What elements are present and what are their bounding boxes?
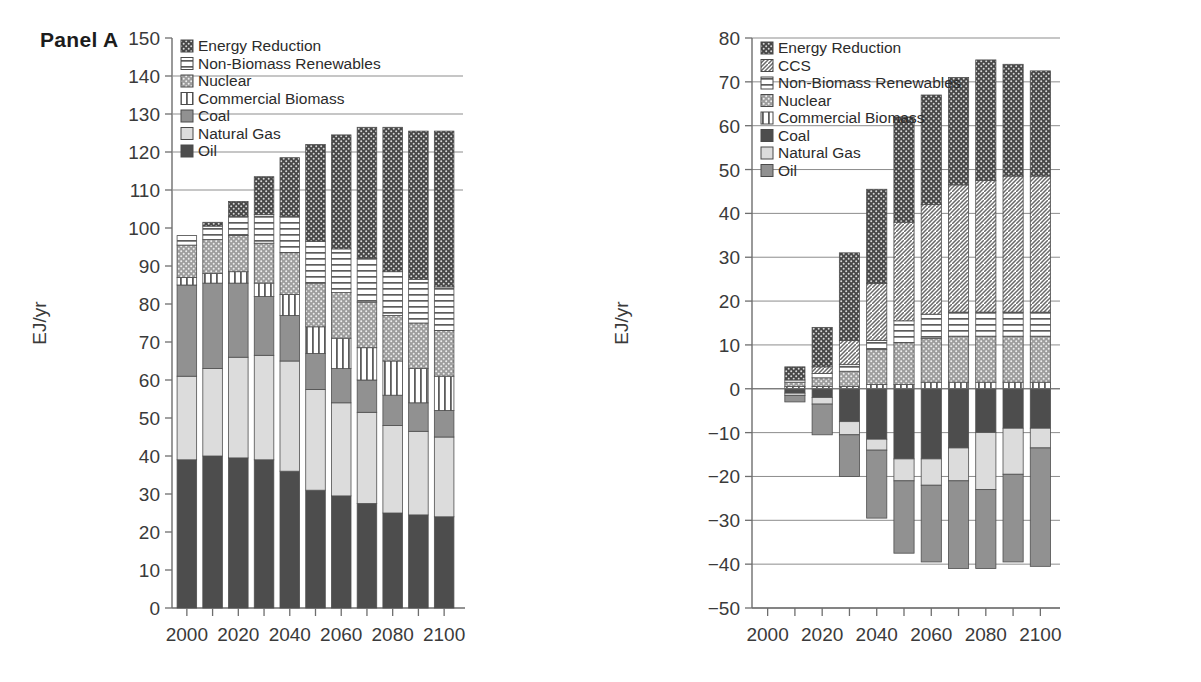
- panel-a: Panel A 01020304050607080901001101201301…: [0, 0, 600, 682]
- panel-b-bar-segment-pos-energy-reduction: [839, 253, 859, 341]
- panel-a-bar-segment-coal: [434, 410, 454, 437]
- panel-a-bar-segment-oil: [306, 490, 326, 608]
- panel-b-legend-label: Non-Biomass Renewables: [778, 74, 961, 91]
- panel-b-bar-segment-pos-ccs: [812, 367, 832, 374]
- panel-b-bar-segment-neg-coal: [839, 389, 859, 422]
- panel-a-bar-segment-oil: [254, 460, 274, 608]
- panel-b-y-tick-label: 70: [719, 72, 740, 93]
- panel-b-bar-segment-pos-energy-reduction: [867, 189, 887, 283]
- panel-b-bar-segment-pos-non-biomass-renewables: [921, 314, 941, 338]
- panel-b-bar: [976, 60, 996, 569]
- panel-b-bar: [839, 253, 859, 477]
- panel-a-y-tick-label: 50: [139, 408, 160, 429]
- panel-b-bar-segment-neg-coal: [921, 389, 941, 459]
- panel-a-x-tick-label: 2040: [269, 624, 311, 645]
- panel-a-y-tick-label: 20: [139, 522, 160, 543]
- panel-a-bar-segment-non-biomass-renewables: [409, 279, 429, 323]
- panel-a-bar: [254, 177, 274, 608]
- panel-b-bar: [948, 77, 968, 568]
- legend-swatch-dotted-dark: [181, 40, 193, 52]
- panel-b-bar-segment-pos-energy-reduction: [894, 117, 914, 222]
- panel-b-y-tick-label: 30: [719, 247, 740, 268]
- panel-b: Panel B −50−40−30−20−1001020304050607080…: [600, 0, 1201, 682]
- panel-b-bar-segment-neg-coal: [1030, 389, 1050, 428]
- panel-a-bar: [229, 201, 249, 608]
- panel-a-bar-segment-energy-reduction: [331, 135, 351, 249]
- panel-a-y-tick-label: 80: [139, 294, 160, 315]
- panel-a-bar-segment-non-biomass-renewables: [280, 217, 300, 253]
- panel-a-bar-segment-coal: [409, 403, 429, 432]
- panel-b-legend-label: Nuclear: [778, 92, 831, 109]
- panel-a-y-tick-label: 10: [139, 560, 160, 581]
- panel-b-bar-segment-pos-nuclear: [948, 336, 968, 382]
- panel-b-bar-segment-neg-natural-gas: [839, 422, 859, 435]
- legend-swatch-solid-light: [761, 147, 773, 159]
- panel-b-bar: [1030, 71, 1050, 566]
- panel-a-bar-segment-natural-gas: [254, 355, 274, 460]
- legend-swatch-diagonal-hatch: [761, 60, 773, 72]
- panel-a-bar-segment-coal: [306, 353, 326, 389]
- panel-a-x-tick-label: 2080: [372, 624, 414, 645]
- panel-a-bar-segment-energy-reduction: [229, 201, 249, 216]
- panel-b-bar-segment-neg-natural-gas: [921, 459, 941, 485]
- panel-b-x-tick-label: 2000: [746, 624, 788, 645]
- panel-b-bar-segment-pos-nuclear: [785, 382, 805, 386]
- panel-b-bar: [867, 189, 887, 518]
- panel-b-bar-segment-pos-ccs: [894, 222, 914, 321]
- panel-a-bar-segment-energy-reduction: [203, 222, 223, 226]
- panel-b-bar-segment-pos-ccs: [867, 284, 887, 341]
- panel-b-bar-segment-pos-ccs: [976, 181, 996, 313]
- panel-b-bar-segment-pos-commercial-biomass: [1030, 382, 1050, 389]
- panel-b-bar-segment-pos-ccs: [839, 341, 859, 365]
- panel-b-bar-segment-neg-oil: [1003, 474, 1023, 562]
- panel-b-bar-segment-neg-oil: [839, 435, 859, 477]
- panel-a-bar-segment-non-biomass-renewables: [331, 249, 351, 293]
- panel-a-bar-segment-natural-gas: [331, 403, 351, 496]
- panel-b-x-tick-label: 2100: [1019, 624, 1061, 645]
- panel-a-bar-segment-commercial-biomass: [203, 274, 223, 284]
- panel-a-bar-segment-energy-reduction: [280, 158, 300, 217]
- panel-a-y-tick-label: 40: [139, 446, 160, 467]
- panel-b-bar-segment-pos-nuclear: [812, 378, 832, 387]
- panel-a-y-tick-label: 140: [128, 66, 160, 87]
- legend-swatch-vertical-stripe: [761, 112, 773, 124]
- panel-b-legend-label: CCS: [778, 57, 811, 74]
- panel-b-bar-segment-pos-non-biomass-renewables: [976, 312, 996, 336]
- panel-b-bar-segment-neg-oil: [894, 481, 914, 553]
- panel-a-y-tick-label: 70: [139, 332, 160, 353]
- panel-b-bar-segment-pos-non-biomass-renewables: [839, 365, 859, 372]
- panel-a-bar-segment-oil: [383, 513, 403, 608]
- legend-swatch-solid-dark: [181, 145, 193, 157]
- panel-b-x-tick-label: 2040: [856, 624, 898, 645]
- panel-b-bar: [1003, 64, 1023, 562]
- panel-b-y-tick-label: −40: [708, 554, 740, 575]
- panel-b-x-tick-label: 2080: [965, 624, 1007, 645]
- panel-a-legend-label: Energy Reduction: [198, 37, 321, 54]
- panel-a-bar-segment-nuclear: [306, 283, 326, 327]
- panel-a-bar-segment-natural-gas: [306, 390, 326, 491]
- panel-b-bar-segment-pos-nuclear: [894, 343, 914, 385]
- panel-a-bar-segment-oil: [229, 458, 249, 608]
- panel-a-bar-segment-commercial-biomass: [383, 361, 403, 395]
- panel-a-bar-segment-nuclear: [409, 323, 429, 369]
- panel-a-bar-segment-non-biomass-renewables: [177, 236, 197, 246]
- legend-swatch-dotted-mid: [761, 95, 773, 107]
- panel-b-y-tick-label: 0: [729, 379, 740, 400]
- panel-a-legend-label: Coal: [198, 107, 230, 124]
- panel-a-bar-segment-commercial-biomass: [331, 338, 351, 368]
- legend-swatch-solid-light: [181, 128, 193, 140]
- panel-a-bar-segment-natural-gas: [203, 369, 223, 456]
- panel-b-bar-segment-pos-commercial-biomass: [1003, 382, 1023, 389]
- panel-a-bar: [280, 158, 300, 608]
- panel-a-bar: [203, 222, 223, 608]
- panel-b-bar-segment-pos-energy-reduction: [1030, 71, 1050, 176]
- panel-a-bar-segment-coal: [203, 283, 223, 369]
- panel-a-bar-segment-oil: [331, 496, 351, 608]
- panel-a-bar-segment-natural-gas: [280, 361, 300, 471]
- panel-b-bar: [921, 95, 941, 562]
- panel-b-bar-segment-pos-non-biomass-renewables: [812, 373, 832, 377]
- panel-b-bar-segment-neg-natural-gas: [894, 459, 914, 481]
- panel-a-legend-label: Nuclear: [198, 72, 251, 89]
- panel-b-legend-label: Natural Gas: [778, 144, 861, 161]
- panel-a-bar: [409, 131, 429, 608]
